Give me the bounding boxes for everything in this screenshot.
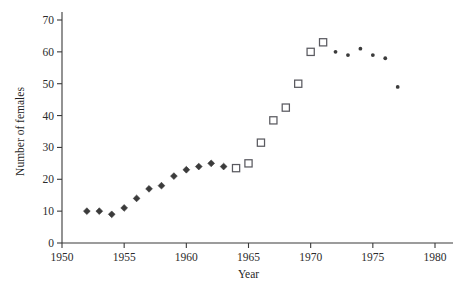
y-tick-label: 40 <box>43 110 55 122</box>
data-point-diamond <box>171 173 178 180</box>
y-tick-label: 10 <box>43 205 55 217</box>
x-axis-title: Year <box>238 268 259 280</box>
data-point-square <box>320 39 327 46</box>
data-point-diamond <box>96 208 103 215</box>
axis-lines <box>62 12 453 243</box>
data-point-diamond <box>158 182 165 189</box>
data-point-dot <box>383 56 387 60</box>
y-tick-label: 0 <box>48 237 54 249</box>
y-tick-label: 60 <box>43 46 55 58</box>
data-point-square <box>257 139 264 146</box>
data-point-diamond <box>121 205 128 212</box>
data-point-diamond <box>146 185 153 192</box>
x-tick-label: 1975 <box>361 251 384 263</box>
data-point-diamond <box>220 163 227 170</box>
axis-ticks: 0102030405060701950195519601965197019751… <box>43 14 447 263</box>
data-point-diamond <box>133 195 140 202</box>
x-tick-label: 1955 <box>113 251 136 263</box>
x-tick-label: 1950 <box>51 251 74 263</box>
y-tick-label: 50 <box>43 78 55 90</box>
data-point-dot <box>396 85 400 89</box>
data-point-diamond <box>208 160 215 167</box>
data-point-square <box>232 165 239 172</box>
chart-figure: 0102030405060701950195519601965197019751… <box>0 0 455 285</box>
data-point-dot <box>334 50 338 54</box>
y-tick-label: 20 <box>43 173 55 185</box>
data-point-square <box>270 117 277 124</box>
data-point-dot <box>346 53 350 57</box>
data-point-diamond <box>108 211 115 218</box>
y-tick-label: 70 <box>43 14 55 26</box>
data-point-diamond <box>195 163 202 170</box>
y-axis-title: Number of females <box>14 87 26 176</box>
data-point-diamond <box>83 208 90 215</box>
data-point-square <box>282 104 289 111</box>
data-point-diamond <box>183 166 190 173</box>
data-point-square <box>245 160 252 167</box>
x-tick-label: 1960 <box>175 251 198 263</box>
y-tick-label: 30 <box>43 141 55 153</box>
data-markers <box>83 39 399 218</box>
data-point-dot <box>371 53 375 57</box>
x-tick-label: 1980 <box>424 251 447 263</box>
x-tick-label: 1965 <box>237 251 260 263</box>
x-tick-label: 1970 <box>299 251 322 263</box>
data-point-square <box>307 48 314 55</box>
data-point-square <box>295 80 302 87</box>
data-point-dot <box>359 47 363 51</box>
scatter-plot: 0102030405060701950195519601965197019751… <box>0 0 455 285</box>
